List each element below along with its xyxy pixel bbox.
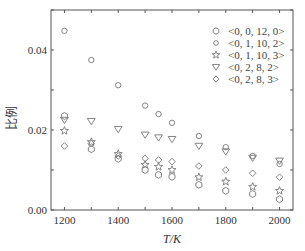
legend-label: <0, 2, 8, 2> [228,61,279,73]
legend-hexagon-icon [213,28,219,34]
diamond-marker [222,167,229,174]
x-tick-label: 1600 [161,214,184,226]
circle-marker [196,133,201,138]
legend-triangle-down-icon [212,64,219,70]
legend-circle-icon [214,41,219,46]
series-hexagon [61,113,282,203]
star-marker [222,177,230,185]
circle-marker [142,103,147,108]
triangle-down-marker [195,143,203,149]
star-marker [276,187,284,195]
x-tick-label: 1400 [107,214,130,226]
x-tick-label: 1200 [53,214,76,226]
diamond-marker [169,158,176,165]
hexagon-marker [223,187,229,194]
x-tick-label: 1800 [215,214,238,226]
diamond-marker [61,143,68,150]
hexagon-marker [61,113,67,120]
legend-label: <0, 1, 10, 2> [228,37,284,49]
circle-marker [89,57,94,62]
legend-diamond-icon [213,76,219,82]
legend-label: <0, 2, 8, 3> [228,73,279,85]
legend: <0, 0, 12, 0><0, 1, 10, 2><0, 1, 10, 3><… [212,25,284,85]
y-tick-label: 0.02 [28,124,47,136]
x-axis-label: T/K [163,232,182,246]
triangle-down-marker [168,136,176,142]
hexagon-marker [169,173,175,180]
star-marker [249,183,257,191]
circle-marker [62,28,67,33]
circle-marker [156,111,161,116]
legend-label: <0, 1, 10, 3> [228,49,284,61]
x-tick-label: 2000 [269,214,292,226]
hexagon-marker [196,181,202,188]
diamond-marker [249,170,256,177]
y-axis-label: 比例 [5,106,19,130]
triangle-down-marker [87,118,95,124]
legend-label: <0, 0, 12, 0> [228,25,284,37]
triangle-down-marker [114,126,122,132]
circle-marker [169,120,174,125]
circle-marker [116,83,121,88]
star-marker [195,173,203,181]
series-diamond [61,140,283,180]
diamond-marker [196,163,203,170]
hexagon-marker [156,171,162,178]
star-marker [168,166,176,174]
triangle-down-marker [155,135,163,141]
diamond-marker [276,174,283,181]
hexagon-marker [277,196,283,203]
hexagon-marker [250,191,256,198]
scatter-chart: 120014001600180020000.000.020.04 <0, 0, … [0,0,305,251]
legend-star-icon [212,51,219,58]
y-tick-label: 0.04 [28,44,48,56]
y-tick-label: 0.00 [28,204,48,216]
triangle-down-marker [141,132,149,138]
star-marker [60,127,68,135]
